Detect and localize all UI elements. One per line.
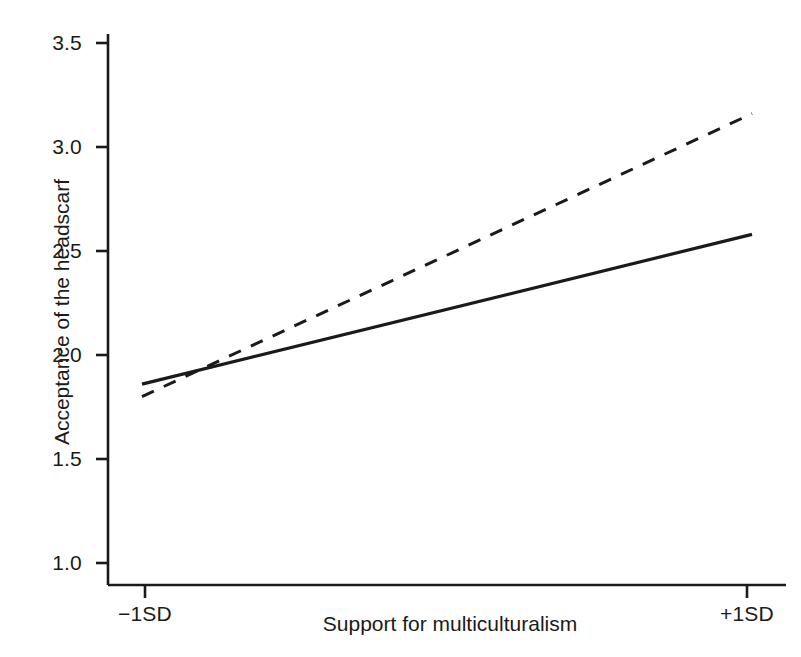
x-axis-title: Support for multiculturalism <box>150 612 750 636</box>
plot-area <box>0 0 801 657</box>
chart-figure: 3.5 3.0 2.5 2.0 1.5 1.0 −1SD +1SD Suppor… <box>0 0 801 657</box>
series-dashed-line <box>142 114 752 397</box>
y-axis-title: Acceptance of the headscarf <box>50 12 74 612</box>
series-solid-line <box>142 234 752 384</box>
